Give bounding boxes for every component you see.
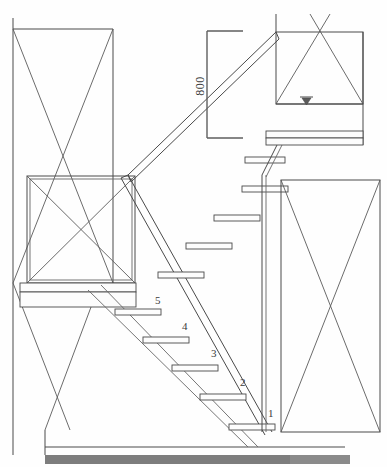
tread-2-plate	[200, 394, 246, 400]
tread-upper-e	[245, 157, 285, 163]
tread-upper-c	[214, 215, 260, 221]
tread-1	[229, 424, 275, 430]
tread-upper-b	[186, 243, 232, 249]
tread-upper-e-plate	[245, 157, 285, 163]
lower-flight-inner-guide-2	[88, 290, 248, 447]
tread-4-plate	[143, 337, 189, 343]
tread-5-plate	[115, 309, 161, 315]
dimension-800: 800	[193, 31, 243, 138]
tread-upper-a-plate	[158, 272, 204, 278]
left-lower-extension-bracing	[13, 283, 100, 455]
left-lower-panel	[27, 176, 135, 283]
dimension-800-label: 800	[193, 76, 207, 96]
tread-2	[200, 394, 246, 400]
tread-3-plate	[172, 365, 218, 371]
tread-1-plate	[229, 424, 275, 430]
left-upper-panel	[13, 18, 113, 455]
right-landing-slab	[266, 131, 363, 145]
step-label-3: 3	[211, 347, 217, 359]
lower-stringer-top-line	[128, 175, 272, 432]
tread-4	[143, 337, 189, 343]
landing-slab-upper	[20, 283, 136, 292]
ground-hatch-bar	[45, 455, 350, 464]
staircase-elevation-drawing: 800 1 2 3 4 5	[0, 0, 387, 467]
upper-stringer-top-line	[128, 32, 276, 175]
tread-upper-c-plate	[214, 215, 260, 221]
right-upper-panel	[276, 14, 363, 145]
tread-5	[115, 309, 161, 315]
ground-hatch-bar-fill-dark	[45, 455, 290, 464]
step-label-1: 1	[268, 407, 274, 419]
tread-3	[172, 365, 218, 371]
step-label-4: 4	[182, 320, 188, 332]
landing-slab-lower	[20, 292, 136, 307]
right-upper-panel-outline	[276, 32, 363, 104]
step-label-2: 2	[240, 376, 246, 388]
right-landing-slab-upper	[266, 131, 363, 138]
tread-upper-b-plate	[186, 243, 232, 249]
right-upper-brace-b	[310, 14, 363, 104]
right-lower-panel	[281, 180, 380, 432]
right-upper-brace-a	[276, 14, 330, 104]
step-label-5: 5	[155, 294, 161, 306]
right-landing-slab-lower	[266, 138, 363, 145]
cad-drawing-canvas: 800 1 2 3 4 5	[0, 0, 387, 467]
tread-upper-a	[158, 272, 204, 278]
